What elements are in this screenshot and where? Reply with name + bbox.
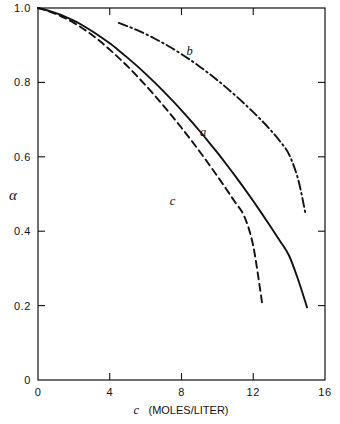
x-axis-title-symbol: c (133, 403, 139, 417)
figure-container: 048121600.20.40.60.81.0 abc α c (MOLES/L… (0, 0, 340, 424)
y-tick-label-1: 1.0 (14, 2, 31, 14)
y-tick-label-0: 0 (24, 374, 31, 386)
x-tick-label-12: 12 (247, 386, 260, 398)
y-tick-label-0.2: 0.2 (14, 300, 31, 312)
y-tick-label-0.4: 0.4 (14, 225, 31, 237)
chart-background (0, 0, 340, 424)
x-tick-label-4: 4 (106, 386, 113, 398)
x-tick-label-16: 16 (318, 386, 331, 398)
x-tick-label-0: 0 (35, 386, 42, 398)
x-tick-label-8: 8 (178, 386, 185, 398)
curve-label-b: b (186, 44, 192, 58)
y-axis-title: α (9, 187, 18, 203)
curve-label-c: c (170, 194, 176, 208)
y-tick-label-0.6: 0.6 (14, 151, 31, 163)
y-tick-label-0.8: 0.8 (14, 76, 31, 88)
x-axis-title-units: (MOLES/LITER) (148, 404, 228, 416)
line-chart: 048121600.20.40.60.81.0 abc α c (MOLES/L… (0, 0, 340, 424)
curve-label-a: a (200, 125, 206, 139)
